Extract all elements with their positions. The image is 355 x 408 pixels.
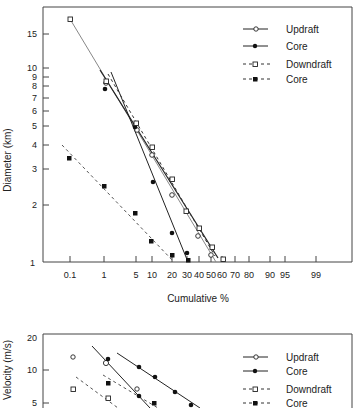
x-tick-label: 10 (147, 270, 157, 280)
x-tick-label: 60 (217, 270, 227, 280)
legend-label-downdraft: Downdraft (286, 384, 332, 395)
bottom-downdraft-core-points (106, 381, 157, 406)
legend-open-square-icon (253, 62, 258, 67)
top-x-axis-title: Cumulative % (167, 293, 229, 304)
legend-filled-square-icon (253, 401, 258, 406)
chart-canvas: 15 10 9 8 7 6 5 4 3 2 1 (0, 0, 355, 408)
y-tick-label: 8 (32, 81, 37, 91)
top-x-ticks (70, 256, 316, 262)
legend-label-core: Core (286, 41, 308, 52)
top-legend: Updraft Core Downdraft Core (243, 24, 332, 85)
bottom-downdraft-points (71, 387, 111, 401)
y-tick-label: 5 (32, 398, 37, 408)
legend-label-downdraft: Downdraft (286, 59, 332, 70)
legend-label-core: Core (286, 366, 308, 377)
legend-open-square-icon (253, 387, 258, 392)
x-tick-label: 80 (244, 270, 254, 280)
y-tick-label: 6 (32, 106, 37, 116)
x-tick-label: 70 (230, 270, 240, 280)
x-tick-label: 1 (101, 270, 106, 280)
top-chart: 15 10 9 8 7 6 5 4 3 2 1 (2, 7, 352, 304)
y-tick-label: 20 (27, 333, 37, 343)
y-tick-label: 7 (32, 93, 37, 103)
x-tick-label: 5 (133, 270, 138, 280)
legend-label-core-downdraft: Core (286, 74, 308, 85)
downdraft-points (68, 17, 226, 262)
legend-filled-square-icon (253, 77, 258, 82)
bottom-legend: Updraft Core Downdraft Core (243, 352, 332, 408)
bottom-chart: 20 10 5 Velocity (m/s) (2, 333, 352, 408)
downdraft-core-points (67, 156, 191, 263)
legend-filled-circle-icon (253, 369, 257, 373)
y-tick-label: 4 (32, 140, 37, 150)
legend-filled-circle-icon (253, 44, 257, 48)
bottom-y-axis-title: Velocity (m/s) (2, 340, 13, 400)
x-tick-label: 95 (280, 270, 290, 280)
bottom-y-tick-labels: 20 10 5 (27, 333, 37, 408)
y-tick-label: 15 (27, 29, 37, 39)
updraft-core-fit-line-bottom (117, 353, 200, 408)
y-tick-label: 2 (32, 200, 37, 210)
x-tick-label: 50 (206, 270, 216, 280)
legend-label-core-downdraft: Core (286, 398, 308, 408)
bottom-updraft-core-points (106, 357, 194, 408)
x-tick-label: 99 (311, 270, 321, 280)
legend-label-updraft: Updraft (286, 24, 319, 35)
y-tick-label: 1 (30, 258, 35, 268)
legend-label-updraft: Updraft (286, 352, 319, 363)
x-tick-label: 90 (265, 270, 275, 280)
y-tick-label: 10 (27, 365, 37, 375)
bottom-y-ticks (43, 370, 49, 403)
y-tick-label: 5 (32, 121, 37, 131)
top-y-ticks (43, 34, 49, 205)
top-y-axis-title: Diameter (km) (2, 128, 13, 191)
updraft-core-points (103, 87, 190, 256)
x-tick-label: 20 (167, 270, 177, 280)
updraft-core-fit-line (111, 72, 188, 262)
top-x-tick-labels: 0.1 1 5 10 20 30 40 50 60 70 80 90 95 99 (64, 270, 321, 280)
y-tick-label: 3 (32, 164, 37, 174)
downdraft-core-fit-line (62, 145, 174, 262)
legend-open-circle-icon (254, 355, 258, 359)
legend-open-circle-icon (254, 27, 258, 31)
top-y-tick-labels: 15 10 9 8 7 6 5 4 3 2 1 (27, 29, 37, 268)
downdraft-fit-line-bottom (76, 377, 118, 408)
downdraft-fit-line-upper (70, 19, 216, 262)
x-tick-label: 30 (182, 270, 192, 280)
x-tick-label: 0.1 (64, 270, 77, 280)
x-tick-label: 40 (194, 270, 204, 280)
